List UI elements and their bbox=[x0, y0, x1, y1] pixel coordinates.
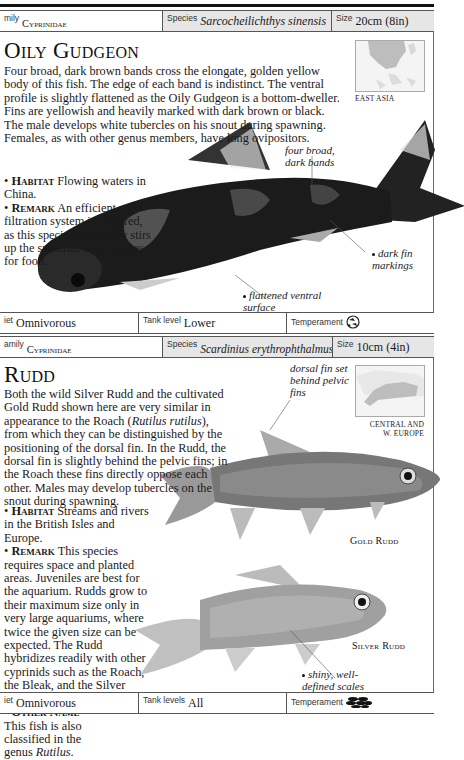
family-label: amily bbox=[4, 339, 24, 349]
size-cell: Size 10cm (4in) bbox=[333, 337, 434, 357]
species-value: Scardinius erythrophthalmus bbox=[200, 343, 333, 355]
rudd-footer-bar: iet Omnivorous Tank levels All Temperame… bbox=[0, 692, 434, 714]
size-value: 10cm (4in) bbox=[357, 340, 410, 355]
tank-level-label: Tank levels bbox=[143, 695, 185, 705]
callout-shiny-scales: shiny, well-defined scales bbox=[302, 668, 372, 692]
gudgeon-description-text: Four broad, dark brown bands cross the e… bbox=[4, 65, 342, 145]
habitat-label: Habitat bbox=[11, 174, 54, 188]
rudd-description: Both the wild Silver Rudd and the cultiv… bbox=[4, 388, 344, 509]
family-cell: mily Cyprinidae bbox=[0, 11, 163, 31]
callout-dark-fin-markings: dark fin markings bbox=[372, 247, 442, 271]
tank-level-value: Lower bbox=[184, 316, 215, 331]
family-value: Cyprinidae bbox=[22, 18, 67, 29]
east-asia-map bbox=[355, 40, 425, 92]
gold-rudd-caption: Gold Rudd bbox=[350, 535, 399, 546]
remark-text: This species requires space and planted … bbox=[4, 544, 147, 705]
rudd-header-bar: amily Cyprinidae Species Scardinius eryt… bbox=[0, 336, 434, 358]
temperament-label: Temperament bbox=[291, 697, 343, 707]
silver-rudd-caption: Silver Rudd bbox=[352, 640, 405, 651]
callout-flattened-ventral: flattened ventral surface bbox=[243, 289, 343, 313]
size-cell: Size 20cm (8in) bbox=[332, 11, 434, 31]
species-cell: Species Scardinius erythrophthalmus bbox=[163, 337, 333, 357]
temperament-label: Temperament bbox=[291, 317, 343, 327]
remark-label: Remark bbox=[11, 201, 54, 215]
rudd-facts: • Habitat Streams and rivers in the Brit… bbox=[4, 505, 154, 760]
diet-value: Omnivorous bbox=[16, 316, 76, 331]
top-rule bbox=[0, 4, 434, 7]
gudgeon-title: Oily Gudgeon bbox=[4, 38, 139, 64]
species-value: Sarcocheilichthys sinensis bbox=[200, 14, 326, 29]
gudgeon-description: Four broad, dark brown bands cross the e… bbox=[4, 65, 342, 145]
diet-cell: iet Omnivorous bbox=[0, 693, 139, 713]
gudgeon-footer-bar: iet Omnivorous Tank level Lower Temperam… bbox=[0, 312, 434, 334]
tank-level-label: Tank level bbox=[143, 315, 181, 325]
temperament-cell: Temperament bbox=[287, 313, 434, 333]
size-label: Size bbox=[336, 13, 353, 23]
diet-label: iet bbox=[4, 695, 13, 705]
callout-dark-bands: four broad, dark bands bbox=[285, 144, 355, 168]
remark-label: Remark bbox=[11, 544, 54, 558]
callout-dot bbox=[372, 253, 375, 256]
habitat-label: Habitat bbox=[11, 504, 54, 518]
callout-dot bbox=[302, 674, 305, 677]
gudgeon-header-bar: mily Cyprinidae Species Sarcocheilichthy… bbox=[0, 10, 434, 32]
size-value: 20cm (8in) bbox=[356, 14, 409, 29]
diet-value: Omnivorous bbox=[16, 696, 76, 711]
gudgeon-facts: • Habitat Flowing waters in China. • Rem… bbox=[4, 175, 174, 269]
family-cell: amily Cyprinidae bbox=[0, 337, 163, 357]
temperament-cell: Temperament bbox=[287, 693, 434, 713]
tank-level-cell: Tank levels All bbox=[139, 693, 287, 713]
tank-level-value: All bbox=[188, 696, 203, 711]
semi-aggressive-fish-icon bbox=[346, 315, 360, 329]
size-label: Size bbox=[337, 339, 354, 349]
east-asia-label: EAST ASIA bbox=[355, 94, 419, 103]
diet-label: iet bbox=[4, 315, 13, 325]
peaceful-shoal-fish-icon bbox=[346, 696, 372, 708]
rudd-title: Rudd bbox=[4, 362, 55, 388]
diet-cell: iet Omnivorous bbox=[0, 313, 139, 333]
family-label: mily bbox=[4, 13, 19, 23]
species-cell: Species Sarcocheilichthys sinensis bbox=[163, 11, 332, 31]
callout-dot bbox=[243, 295, 246, 298]
family-value: Cyprinidae bbox=[27, 344, 72, 355]
species-label: Species bbox=[167, 13, 197, 23]
tank-level-cell: Tank level Lower bbox=[139, 313, 287, 333]
species-label: Species bbox=[167, 339, 197, 349]
silver-rudd-illustration bbox=[130, 560, 430, 690]
